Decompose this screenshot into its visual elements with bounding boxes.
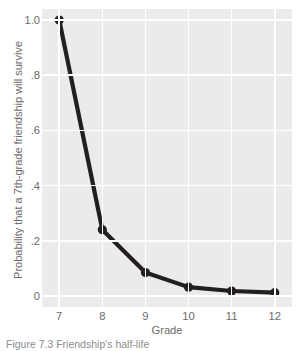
gridline-horizontal — [42, 240, 292, 242]
y-tick-label: .8 — [31, 69, 40, 81]
x-tick-label: 11 — [226, 309, 238, 323]
x-axis-title: Grade — [42, 324, 292, 337]
x-tick-label: 10 — [182, 309, 194, 323]
y-tick-label: 1.0 — [24, 14, 40, 26]
gridline-vertical — [231, 9, 233, 307]
y-tick-label: 0 — [34, 290, 40, 302]
y-axis-tick-labels: 1.0.8.6.4.20 — [18, 0, 42, 343]
y-tick-label: .6 — [31, 124, 40, 136]
x-tick-label: 12 — [269, 309, 281, 323]
gridline-horizontal — [42, 295, 292, 297]
plot-series-svg — [42, 9, 292, 307]
series-line — [59, 20, 275, 293]
x-tick-label: 9 — [142, 309, 148, 323]
x-tick-label: 8 — [99, 309, 105, 323]
y-tick-label: .4 — [31, 180, 40, 192]
plot-panel — [42, 9, 292, 307]
gridline-horizontal — [42, 185, 292, 187]
x-tick-label: 7 — [56, 309, 62, 323]
gridline-horizontal — [42, 74, 292, 76]
gridline-vertical — [274, 9, 276, 307]
gridline-vertical — [58, 9, 60, 307]
y-tick-label: .2 — [31, 235, 40, 247]
gridline-vertical — [188, 9, 190, 307]
gridline-horizontal — [42, 19, 292, 21]
x-axis-tick-labels: 789101112 — [42, 309, 292, 323]
gridline-horizontal — [42, 130, 292, 132]
figure-caption: Figure 7.3 Friendship's half-life — [6, 338, 301, 351]
gridline-vertical — [145, 9, 147, 307]
gridline-vertical — [102, 9, 104, 307]
